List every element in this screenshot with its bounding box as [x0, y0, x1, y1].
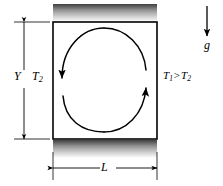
cold-wall-temp-symbol: T: [32, 69, 39, 83]
inequality-operator: >: [173, 69, 181, 81]
figure-canvas: [0, 0, 223, 186]
bottom-wall-hatch: [53, 140, 157, 158]
gravity-label: g: [204, 39, 210, 51]
y-dimension-label: Y: [14, 70, 21, 82]
hot-wall-inequality-label: T1>T2: [163, 70, 191, 82]
l-dimension-label: L: [101, 161, 108, 173]
cold-wall-temperature-label: T2: [32, 70, 43, 84]
convection-enclosure-figure: Y T2 T1>T2 L g: [0, 0, 223, 186]
top-wall-hatch: [53, 4, 157, 22]
enclosure-box: [53, 22, 157, 139]
cold-wall-temp-subscript: 2: [39, 75, 43, 84]
cool-wall-temp-subscript: 2: [187, 74, 191, 83]
